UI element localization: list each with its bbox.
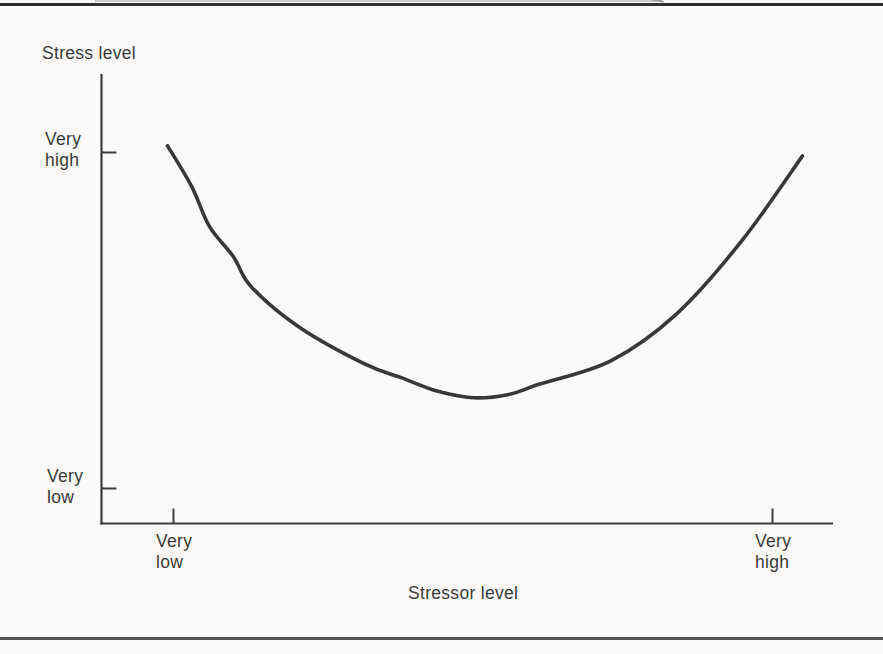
y-tick-label-very-high-line2: high [45,150,79,170]
x-tick-label-very-low: Verylow [156,531,192,573]
x-tick-label-very-high-line2: high [755,552,789,572]
x-tick-label-very-low-line1: Very [156,531,192,551]
stress-stressor-chart [0,0,883,654]
bottom-rule [0,637,883,640]
y-tick-label-very-low-line2: low [47,487,74,507]
x-tick-label-very-high: Veryhigh [755,531,791,573]
y-tick-label-very-low-line1: Very [47,466,83,486]
y-tick-label-very-low: Verylow [47,466,83,508]
y-tick-label-very-high-line1: Very [45,129,81,149]
figure-page: Stress level Veryhigh Verylow Verylow Ve… [0,0,883,654]
y-axis-title: Stress level [42,43,136,64]
x-axis-title: Stressor level [408,583,518,604]
stress-curve [168,146,803,398]
y-tick-label-very-high: Veryhigh [45,129,81,171]
x-tick-label-very-high-line1: Very [755,531,791,551]
x-tick-label-very-low-line2: low [156,552,183,572]
